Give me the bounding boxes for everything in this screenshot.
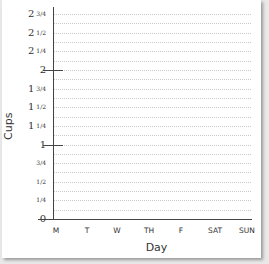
x-tick-label: SAT [200, 226, 230, 235]
gridline [53, 107, 251, 108]
gridline [53, 135, 251, 136]
gridline [53, 154, 251, 155]
y-tick-label: 2 1/2 [20, 27, 46, 39]
gridline [53, 172, 251, 173]
gridline [53, 61, 251, 62]
y-tick-label: 3/4 [20, 157, 46, 169]
gridline [53, 70, 251, 71]
gridline [53, 33, 251, 34]
gridline [53, 191, 251, 192]
plot-area [53, 6, 251, 219]
gridline [53, 200, 251, 201]
x-tick-label: F [166, 226, 196, 235]
x-tick-label: TH [134, 226, 164, 235]
x-tick-label: T [72, 226, 102, 235]
x-tick-label: W [102, 226, 132, 235]
gridline [53, 79, 251, 80]
gridline [53, 89, 251, 90]
x-tick-label: M [41, 226, 71, 235]
y-tick-label: 2 3/4 [20, 8, 46, 20]
gridline [53, 182, 251, 183]
x-axis-title: Day [0, 241, 269, 254]
gridline [53, 210, 251, 211]
y-tick-label: 1/4 [20, 194, 46, 206]
y-tick-label: 2 1/4 [20, 45, 46, 57]
y-tick-label: 1/2 [20, 176, 46, 188]
y-axis-line [53, 7, 54, 220]
gridline [53, 14, 251, 15]
y-tick-label: 1 1/4 [20, 120, 46, 132]
y-tick-label: 1 3/4 [20, 83, 46, 95]
x-tick-label: SUN [232, 226, 262, 235]
gridline [53, 117, 251, 118]
y-tick-label: 1 1/2 [20, 101, 46, 113]
x-axis-line [38, 219, 252, 220]
gridline [53, 42, 251, 43]
gridline [53, 145, 251, 146]
gridline [53, 23, 251, 24]
gridline [53, 98, 251, 99]
gridline [53, 126, 251, 127]
gridline [53, 51, 251, 52]
y-axis-title: Cups [2, 113, 15, 140]
gridline [53, 163, 251, 164]
